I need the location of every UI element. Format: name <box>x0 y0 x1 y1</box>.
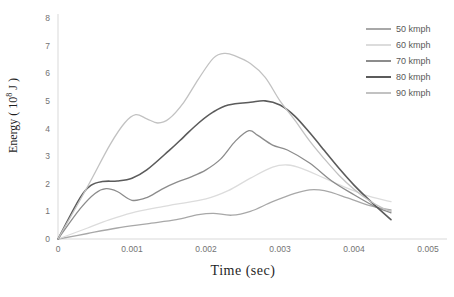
legend-item-90-kmph: 90 kmph <box>366 85 431 101</box>
legend-label-80-kmph: 80 kmph <box>396 72 431 82</box>
y-tick-label: 1 <box>45 206 50 216</box>
y-tick-label: 5 <box>45 96 50 106</box>
legend-label-90-kmph: 90 kmph <box>396 88 431 98</box>
x-tick-label: 0.003 <box>269 244 291 254</box>
y-axis-title-text: Energy ( 10 <box>6 97 20 153</box>
series-line-60-kmph <box>58 165 391 239</box>
y-axis-title: Energy ( 108 J ) <box>6 33 21 198</box>
y-tick-label: 3 <box>45 151 50 161</box>
legend-swatch-70-kmph <box>366 60 391 62</box>
y-tick-label: 8 <box>45 13 50 23</box>
legend-item-70-kmph: 70 kmph <box>366 53 431 69</box>
legend-item-50-kmph: 50 kmph <box>366 21 431 37</box>
series-line-80-kmph <box>58 101 391 239</box>
legend-swatch-90-kmph <box>366 92 391 94</box>
series-line-50-kmph <box>58 190 391 239</box>
legend-item-80-kmph: 80 kmph <box>366 69 431 85</box>
x-axis-title: Time (sec) <box>58 263 428 279</box>
x-tick-label: 0 <box>56 244 61 254</box>
legend-swatch-50-kmph <box>366 28 391 30</box>
y-axis-title-superscript: 8 <box>5 93 14 97</box>
y-tick-label: 7 <box>45 41 50 51</box>
series-line-70-kmph <box>58 131 391 239</box>
legend-label-70-kmph: 70 kmph <box>396 56 431 66</box>
y-tick-label: 2 <box>45 179 50 189</box>
legend-swatch-60-kmph <box>366 44 391 46</box>
y-tick-label: 4 <box>45 124 50 134</box>
legend-label-60-kmph: 60 kmph <box>396 40 431 50</box>
x-tick-label: 0.001 <box>121 244 143 254</box>
series-line-90-kmph <box>58 53 391 239</box>
legend-swatch-80-kmph <box>366 76 391 78</box>
y-tick-label: 0 <box>45 234 50 244</box>
legend-item-60-kmph: 60 kmph <box>366 37 431 53</box>
y-tick-label: 6 <box>45 68 50 78</box>
x-tick-label: 0.004 <box>343 244 365 254</box>
x-tick-label: 0.002 <box>195 244 217 254</box>
y-axis-title-suffix: J ) <box>6 78 20 93</box>
legend: 50 kmph60 kmph70 kmph80 kmph90 kmph <box>366 21 431 101</box>
x-tick-label: 0.005 <box>417 244 439 254</box>
legend-label-50-kmph: 50 kmph <box>396 24 431 34</box>
energy-time-chart: 01234567800.0010.0020.0030.0040.005 Ener… <box>0 0 454 297</box>
